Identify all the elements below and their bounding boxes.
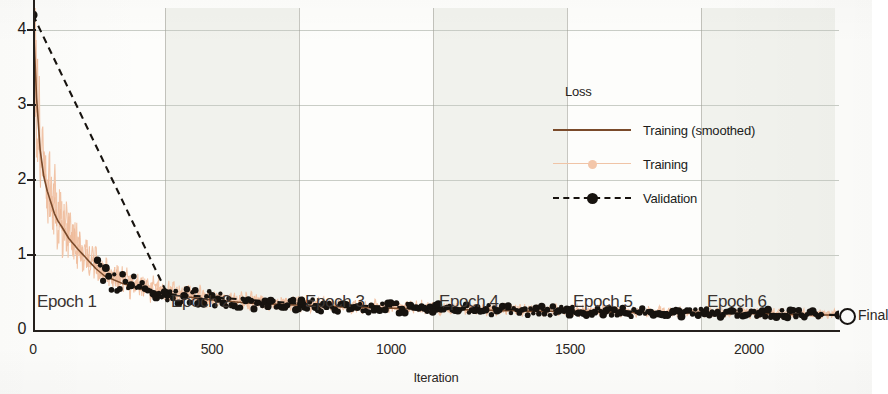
validation-point bbox=[401, 309, 409, 317]
epoch-label-1: Epoch 1 bbox=[37, 292, 97, 312]
legend-item-validation[interactable]: Validation bbox=[553, 181, 788, 215]
validation-point bbox=[690, 311, 695, 316]
epoch-label-3: Epoch 3 bbox=[305, 292, 365, 312]
validation-point bbox=[109, 287, 115, 293]
validation-point bbox=[734, 313, 740, 319]
x-tick-label-500: 500 bbox=[182, 341, 242, 357]
validation-point bbox=[505, 302, 512, 309]
validation-point bbox=[550, 303, 556, 309]
validation-point bbox=[536, 311, 542, 317]
validation-point bbox=[100, 278, 106, 284]
epoch-label-4: Epoch 4 bbox=[439, 292, 499, 312]
validation-point bbox=[695, 312, 702, 319]
validation-point bbox=[780, 308, 785, 313]
validation-point bbox=[127, 281, 135, 289]
validation-point bbox=[112, 272, 116, 276]
y-tick-mark-1 bbox=[27, 254, 36, 256]
validation-point bbox=[522, 306, 528, 312]
legend-label-validation: Validation bbox=[643, 191, 697, 206]
validation-point bbox=[248, 298, 254, 304]
validation-point bbox=[528, 306, 533, 311]
y-tick-label-0: 0 bbox=[0, 321, 26, 337]
x-tick-label-1500: 1500 bbox=[540, 341, 600, 357]
legend-title: Loss bbox=[565, 84, 788, 99]
legend: Loss Training (smoothed) Training Valida… bbox=[551, 80, 790, 219]
epoch-label-5: Epoch 5 bbox=[573, 292, 633, 312]
y-tick-mark-2 bbox=[27, 179, 36, 181]
validation-point bbox=[271, 299, 276, 304]
validation-point bbox=[509, 311, 514, 316]
final-label: Final bbox=[858, 307, 888, 323]
validation-point bbox=[161, 288, 169, 296]
validation-point bbox=[793, 314, 799, 320]
y-tick-label-4: 4 bbox=[0, 21, 26, 37]
validation-point bbox=[105, 273, 112, 280]
validation-point bbox=[693, 307, 698, 312]
validation-point bbox=[295, 306, 301, 312]
validation-point bbox=[290, 297, 296, 303]
validation-point bbox=[790, 307, 797, 314]
validation-point bbox=[139, 280, 144, 285]
y-tick-label-3: 3 bbox=[0, 96, 26, 112]
validation-point bbox=[380, 301, 385, 306]
validation-point bbox=[538, 303, 545, 310]
validation-point bbox=[639, 305, 645, 311]
legend-label-training-smoothed: Training (smoothed) bbox=[643, 123, 755, 138]
legend-item-training[interactable]: Training bbox=[553, 147, 788, 181]
x-tick-label-0: 0 bbox=[3, 341, 63, 357]
epoch-label-2: Epoch 2 bbox=[171, 292, 231, 312]
legend-swatch-training bbox=[553, 157, 631, 171]
validation-point bbox=[429, 308, 437, 316]
validation-point bbox=[525, 312, 531, 318]
y-tick-mark-4 bbox=[27, 29, 36, 31]
validation-point bbox=[629, 314, 634, 319]
validation-point bbox=[784, 314, 791, 321]
legend-label-training: Training bbox=[643, 157, 688, 172]
y-tick-label-1: 1 bbox=[0, 246, 26, 262]
x-tick-label-2000: 2000 bbox=[719, 341, 779, 357]
legend-item-training-smoothed[interactable]: Training (smoothed) bbox=[553, 113, 788, 147]
validation-point bbox=[117, 286, 123, 292]
validation-point bbox=[394, 300, 400, 306]
validation-point bbox=[489, 312, 494, 317]
y-axis-line bbox=[33, 0, 35, 331]
validation-point bbox=[165, 298, 170, 303]
validation-point bbox=[548, 313, 553, 318]
y-tick-mark-3 bbox=[27, 104, 36, 106]
validation-point bbox=[131, 274, 137, 280]
validation-point bbox=[123, 279, 129, 285]
x-tick-label-1000: 1000 bbox=[361, 341, 421, 357]
validation-point bbox=[382, 306, 389, 313]
legend-swatch-training-smoothed bbox=[553, 123, 631, 137]
validation-point bbox=[250, 305, 257, 312]
x-axis-title: Iteration bbox=[0, 370, 872, 385]
validation-point bbox=[818, 312, 823, 317]
y-tick-label-2: 2 bbox=[0, 171, 26, 187]
validation-point bbox=[119, 271, 126, 278]
x-axis-line bbox=[33, 330, 840, 332]
validation-point bbox=[237, 304, 243, 310]
validation-point bbox=[102, 264, 110, 272]
legend-swatch-validation bbox=[553, 191, 631, 205]
validation-point bbox=[544, 307, 550, 313]
validation-point bbox=[284, 302, 290, 308]
epoch-label-6: Epoch 6 bbox=[707, 292, 767, 312]
final-marker-ring bbox=[839, 308, 856, 325]
validation-point bbox=[98, 263, 103, 268]
validation-point bbox=[762, 314, 768, 320]
